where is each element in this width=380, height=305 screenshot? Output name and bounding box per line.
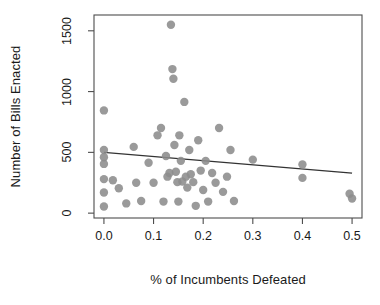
trendline bbox=[104, 152, 352, 173]
data-point bbox=[100, 188, 108, 196]
data-point bbox=[230, 197, 238, 205]
data-point bbox=[194, 136, 202, 144]
data-point bbox=[170, 141, 178, 149]
plot-canvas bbox=[0, 0, 380, 305]
data-point bbox=[223, 172, 231, 180]
data-point bbox=[100, 175, 108, 183]
data-point bbox=[122, 199, 130, 207]
data-point bbox=[144, 158, 152, 166]
data-point bbox=[197, 166, 205, 174]
data-point bbox=[249, 155, 257, 163]
data-point bbox=[175, 131, 183, 139]
data-point bbox=[204, 197, 212, 205]
data-point bbox=[177, 157, 185, 165]
data-point bbox=[211, 179, 219, 187]
data-point bbox=[115, 184, 123, 192]
data-point bbox=[157, 124, 165, 132]
data-point bbox=[215, 124, 223, 132]
data-point bbox=[109, 176, 117, 184]
data-point bbox=[201, 157, 209, 165]
data-point bbox=[100, 202, 108, 210]
data-point bbox=[189, 178, 197, 186]
data-point bbox=[298, 174, 306, 182]
data-point bbox=[132, 179, 140, 187]
data-point bbox=[167, 21, 175, 29]
data-point bbox=[159, 197, 167, 205]
data-point bbox=[219, 188, 227, 196]
data-point bbox=[185, 146, 193, 154]
data-point bbox=[187, 170, 195, 178]
data-point bbox=[172, 168, 180, 176]
data-point bbox=[100, 106, 108, 114]
data-point bbox=[348, 194, 356, 202]
data-point bbox=[100, 160, 108, 168]
data-points bbox=[100, 21, 357, 211]
data-point bbox=[153, 131, 161, 139]
data-point bbox=[226, 146, 234, 154]
data-point bbox=[174, 197, 182, 205]
data-point bbox=[298, 160, 306, 168]
data-point bbox=[162, 152, 170, 160]
scatter-plot-figure: Number of Bills Enacted % of Incumbents … bbox=[0, 0, 380, 305]
data-point bbox=[199, 186, 207, 194]
data-point bbox=[192, 202, 200, 210]
data-point bbox=[149, 179, 157, 187]
axis-frame bbox=[94, 15, 362, 218]
data-point bbox=[169, 75, 177, 83]
data-point bbox=[130, 143, 138, 151]
data-point bbox=[168, 65, 176, 73]
data-point bbox=[180, 98, 188, 106]
data-point bbox=[100, 146, 108, 154]
data-point bbox=[137, 197, 145, 205]
data-point bbox=[208, 169, 216, 177]
